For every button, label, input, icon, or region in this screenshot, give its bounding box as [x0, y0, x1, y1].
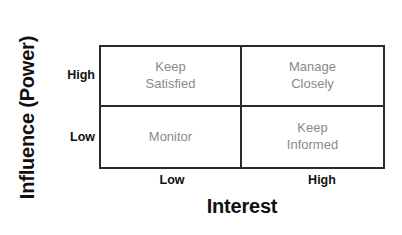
x-axis-tick-low: Low: [122, 174, 222, 187]
x-axis-tick-high: High: [272, 174, 372, 187]
y-axis-tick-low: Low: [51, 131, 95, 144]
quadrant-keep-satisfied: Keep Satisfied: [101, 47, 242, 107]
quadrant-monitor: Monitor: [101, 107, 242, 167]
y-axis-tick-high: High: [51, 69, 95, 82]
matrix-grid: Keep Satisfied Manage Closely Monitor Ke…: [99, 45, 385, 169]
stakeholder-matrix-diagram: Influence (Power) High Low Keep Satisfie…: [0, 0, 402, 235]
quadrant-keep-informed: Keep Informed: [242, 107, 383, 167]
quadrant-manage-closely: Manage Closely: [242, 47, 383, 107]
x-axis-title: Interest: [99, 196, 385, 216]
y-axis-title: Influence (Power): [0, 0, 54, 235]
